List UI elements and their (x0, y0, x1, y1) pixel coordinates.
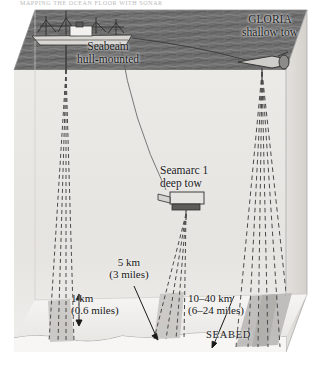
seamarc-towfish-body (170, 192, 204, 204)
ship-superstructure (70, 26, 92, 36)
figure-canvas: MAPPING THE OCEAN FLOOR WITH SONAR (0, 0, 332, 367)
seamarc-transducer-array (172, 204, 200, 210)
ship-funnel (76, 22, 83, 27)
label-seabeam: Seabeam hull-mounted (54, 40, 162, 66)
label-seabed: SEABED (206, 329, 251, 341)
label-swath-seamarc: 5 km (3 miles) (98, 256, 160, 281)
label-swath-gloria: 10–40 km (6–24 miles) (188, 292, 274, 317)
gloria-towfish-tail (279, 55, 289, 69)
label-gloria: GLORIA shallow tow (222, 13, 318, 39)
label-swath-seabeam: 1 km (0.6 miles) (71, 292, 141, 317)
label-seamarc: Seamarc 1 deep tow (160, 164, 234, 190)
